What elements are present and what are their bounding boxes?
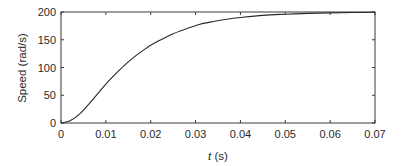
y-axis-label: Speed (rad/s) (16, 33, 28, 103)
y-tick-label: 100 (38, 62, 56, 74)
y-tick-label: 200 (38, 6, 56, 18)
axes-frame (61, 12, 375, 123)
x-axis-unit: (s) (211, 150, 228, 162)
x-axis-ticks: 00.010.020.030.040.050.060.07 (58, 12, 386, 140)
speed-curve (61, 12, 375, 123)
y-tick-label: 50 (44, 89, 56, 101)
x-tick-label: 0 (58, 128, 64, 140)
x-tick-label: 0.04 (230, 128, 251, 140)
x-tick-label: 0.07 (364, 128, 385, 140)
y-axis-ticks: 050100150200 (38, 6, 375, 129)
x-tick-label: 0.03 (185, 128, 206, 140)
x-tick-label: 0.05 (275, 128, 296, 140)
speed-chart: 00.010.020.030.040.050.060.07 0501001502… (0, 0, 408, 166)
x-tick-label: 0.01 (95, 128, 116, 140)
x-tick-label: 0.02 (140, 128, 161, 140)
y-tick-label: 0 (50, 117, 56, 129)
plot-area (61, 12, 375, 123)
x-axis-label: t (s) (208, 150, 228, 162)
x-tick-label: 0.06 (319, 128, 340, 140)
y-tick-label: 150 (38, 34, 56, 46)
